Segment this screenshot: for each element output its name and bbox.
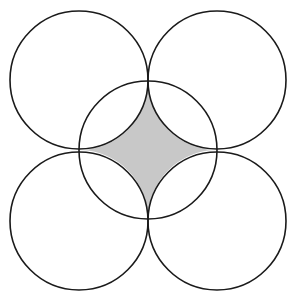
circle-bottom-left <box>10 152 148 290</box>
circle-top-right <box>148 11 286 149</box>
circle-bottom-right <box>148 152 286 290</box>
circles-diagram <box>0 0 296 303</box>
circle-top-left <box>10 11 148 149</box>
